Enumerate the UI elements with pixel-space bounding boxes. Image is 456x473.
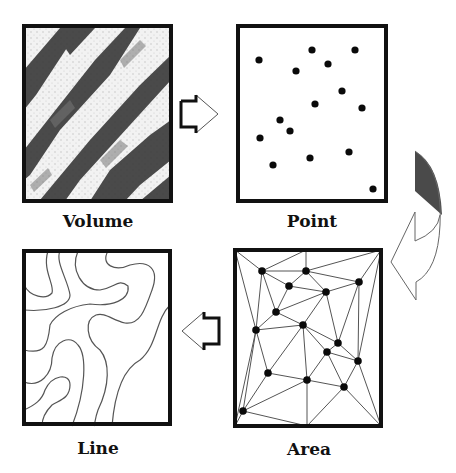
dot (306, 154, 313, 161)
area-panel (235, 250, 381, 426)
point-panel (238, 26, 386, 201)
dot (354, 357, 362, 365)
dot (256, 134, 263, 141)
dot (323, 348, 331, 356)
line-panel (24, 251, 170, 426)
volume-panel (24, 26, 171, 201)
dot (340, 383, 348, 391)
line-label: Line (18, 438, 178, 458)
volume-label: Volume (18, 211, 178, 231)
dot (311, 100, 318, 107)
dot (322, 288, 330, 296)
curved-arrow-icon (391, 151, 442, 300)
dot (264, 369, 272, 377)
dot (255, 56, 262, 63)
diagram-canvas (0, 0, 456, 473)
dot (276, 116, 283, 123)
dot (269, 161, 276, 168)
dot (302, 267, 310, 275)
dot (308, 46, 315, 53)
dot (369, 185, 376, 192)
dot (358, 104, 365, 111)
dot (345, 148, 352, 155)
arrow-right-icon (181, 95, 218, 133)
dot (258, 267, 266, 275)
dot (239, 407, 247, 415)
dot (324, 60, 331, 67)
dot (334, 339, 342, 347)
dot (338, 87, 345, 94)
arrow-left-icon (182, 312, 219, 350)
point-label: Point (232, 211, 392, 231)
dot (303, 376, 311, 384)
dot (252, 326, 260, 334)
terrain-image (24, 26, 171, 201)
dot (285, 282, 293, 290)
dot (299, 321, 307, 329)
dot (286, 127, 293, 134)
dot (292, 67, 299, 74)
area-label: Area (229, 439, 389, 459)
dot (355, 278, 363, 286)
dot (272, 308, 280, 316)
dot (351, 46, 358, 53)
